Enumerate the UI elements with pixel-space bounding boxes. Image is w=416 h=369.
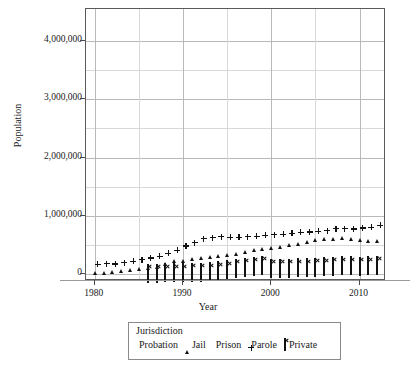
marker-boxed-x-icon bbox=[244, 258, 246, 277]
legend-items: ProbationJailPrisonParolePrivate bbox=[136, 339, 336, 350]
data-point-jail bbox=[208, 238, 212, 256]
legend-entry-private[interactable]: Private bbox=[284, 339, 317, 350]
gridline-vertical bbox=[183, 9, 184, 279]
marker-boxed-x-icon bbox=[359, 257, 361, 276]
y-axis-tick-label: 1,000,000 bbox=[14, 210, 82, 220]
data-point-private bbox=[270, 260, 272, 278]
data-point-jail bbox=[119, 252, 123, 270]
legend-entry-probation[interactable]: Probation bbox=[136, 339, 178, 350]
marker-boxed-x-icon bbox=[279, 259, 281, 278]
data-point-jail bbox=[287, 226, 291, 244]
x-axis-spine bbox=[60, 280, 410, 281]
data-point-private bbox=[209, 263, 211, 281]
marker-boxed-x-icon bbox=[200, 263, 202, 282]
data-point-jail bbox=[172, 242, 176, 260]
data-point-jail bbox=[199, 239, 203, 257]
marker-triangle-icon bbox=[208, 238, 212, 259]
gridline-horizontal bbox=[86, 158, 384, 159]
data-point-private bbox=[350, 257, 352, 275]
marker-boxed-x-icon bbox=[191, 263, 193, 282]
marker-boxed-x-icon bbox=[288, 259, 290, 278]
plot-area bbox=[85, 8, 385, 280]
marker-triangle-icon bbox=[185, 339, 189, 354]
data-point-jail bbox=[278, 228, 282, 246]
data-point-private bbox=[367, 257, 369, 275]
data-point-private bbox=[226, 261, 228, 279]
y-axis-tick-mark bbox=[80, 40, 85, 41]
legend-entry-label: Prison bbox=[216, 339, 242, 350]
gridline-horizontal-minor bbox=[86, 128, 384, 129]
marker-triangle-icon bbox=[172, 242, 176, 263]
marker-triangle-icon bbox=[225, 236, 229, 257]
marker-boxed-x-icon bbox=[323, 257, 325, 276]
marker-boxed-x-icon bbox=[376, 256, 378, 275]
legend-entry-parole[interactable]: Parole bbox=[248, 339, 277, 350]
data-point-private bbox=[297, 259, 299, 277]
y-axis-tick-mark bbox=[80, 98, 85, 99]
data-point-jail bbox=[358, 221, 362, 239]
marker-boxed-x-icon bbox=[217, 261, 219, 280]
legend-entry-prison[interactable]: Prison bbox=[213, 339, 242, 350]
legend-entry-jail[interactable]: Jail bbox=[185, 339, 206, 350]
data-point-private bbox=[235, 260, 237, 278]
legend-entry-label: Probation bbox=[139, 339, 178, 350]
marker-boxed-x-icon bbox=[297, 258, 299, 277]
data-point-jail bbox=[181, 242, 185, 260]
x-axis-tick-mark bbox=[182, 280, 183, 285]
data-point-private bbox=[323, 258, 325, 276]
legend-marker bbox=[185, 339, 189, 350]
data-point-jail bbox=[216, 237, 220, 255]
legend-entry-label: Parole bbox=[251, 339, 277, 350]
marker-triangle-icon bbox=[313, 221, 317, 242]
gridline-horizontal bbox=[86, 41, 384, 42]
marker-triangle-icon bbox=[305, 223, 309, 244]
data-point-jail bbox=[163, 245, 167, 263]
x-axis-tick-label: 1990 bbox=[173, 288, 192, 298]
marker-triangle-icon bbox=[366, 222, 370, 243]
data-point-private bbox=[332, 258, 334, 276]
marker-boxed-x-icon bbox=[306, 258, 308, 277]
marker-triangle-icon bbox=[296, 225, 300, 246]
y-axis-tick-mark bbox=[80, 215, 85, 216]
marker-triangle-icon bbox=[93, 254, 97, 275]
marker-triangle-icon bbox=[234, 235, 238, 256]
y-axis-title: Population bbox=[12, 86, 23, 166]
data-point-jail bbox=[110, 253, 114, 271]
y-axis-tick-label: 3,000,000 bbox=[14, 93, 82, 103]
x-axis-tick-mark bbox=[94, 280, 95, 285]
data-point-private bbox=[244, 259, 246, 277]
data-point-private bbox=[261, 257, 263, 275]
gridline-horizontal bbox=[86, 216, 384, 217]
marker-boxed-x-icon bbox=[341, 256, 343, 275]
marker-boxed-x-icon bbox=[209, 262, 211, 281]
data-point-jail bbox=[225, 236, 229, 254]
data-point-private bbox=[279, 260, 281, 278]
y-axis-tick-mark bbox=[80, 273, 85, 274]
marker-triangle-icon bbox=[216, 237, 220, 258]
y-axis-tick-label: 0 bbox=[14, 268, 82, 278]
data-point-jail bbox=[252, 231, 256, 249]
marker-boxed-x-icon bbox=[367, 256, 369, 275]
marker-boxed-x-icon bbox=[261, 256, 263, 275]
legend-marker bbox=[284, 339, 286, 350]
marker-triangle-icon bbox=[269, 229, 273, 250]
legend-title: Jurisdiction bbox=[136, 325, 183, 336]
marker-triangle-icon bbox=[252, 231, 256, 252]
y-axis-tick-labels: 01,000,0002,000,0003,000,0004,000,000 bbox=[4, 0, 82, 369]
marker-boxed-x-icon bbox=[284, 338, 286, 351]
marker-boxed-x-icon bbox=[226, 260, 228, 279]
chart-root: 01,000,0002,000,0003,000,0004,000,000 19… bbox=[0, 0, 416, 369]
gridline-horizontal bbox=[86, 99, 384, 100]
data-point-jail bbox=[260, 230, 264, 248]
x-axis-tick-label: 2010 bbox=[349, 288, 368, 298]
x-axis-tick-label: 1980 bbox=[84, 288, 103, 298]
marker-triangle-icon bbox=[340, 219, 344, 240]
marker-triangle-icon bbox=[331, 220, 335, 241]
marker-triangle-icon bbox=[190, 240, 194, 261]
marker-boxed-x-icon bbox=[270, 259, 272, 278]
x-axis-tick-mark bbox=[270, 280, 271, 285]
marker-boxed-x-icon bbox=[314, 258, 316, 277]
data-point-jail bbox=[296, 225, 300, 243]
marker-triangle-icon bbox=[137, 250, 141, 271]
x-axis-tick-label: 2000 bbox=[261, 288, 280, 298]
